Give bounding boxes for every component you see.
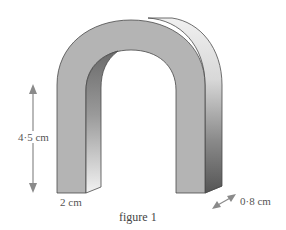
height-label: 4·5 cm (17, 131, 50, 143)
depth-label: 0·8 cm (240, 195, 271, 207)
figure-caption: figure 1 (119, 210, 157, 225)
width-label: 2 cm (60, 196, 82, 208)
arch-inner-side-face (86, 51, 118, 193)
depth-arrow (212, 194, 236, 209)
arch-front-face (57, 20, 205, 193)
